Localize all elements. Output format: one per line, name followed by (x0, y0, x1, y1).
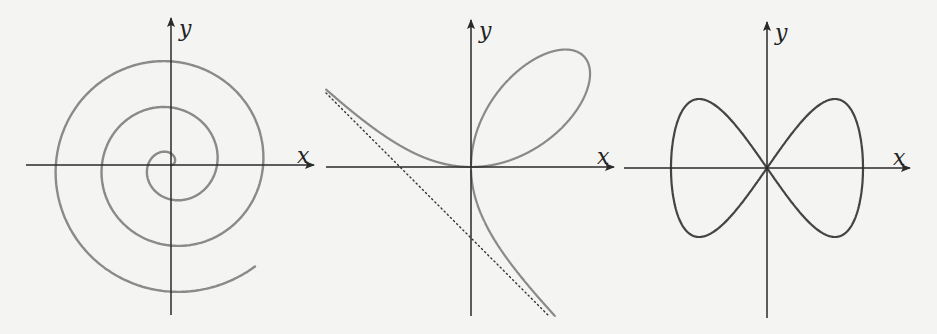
x-axis-label: x (297, 143, 310, 168)
x-axis-label: x (893, 145, 906, 170)
x-axis-label: x (597, 144, 610, 169)
folium-curve (326, 50, 590, 316)
panel-folium: x y (326, 18, 614, 316)
spiral-curve (56, 61, 264, 292)
y-axis-label: y (178, 16, 192, 41)
y-axis-label: y (774, 20, 788, 45)
y-axis-label: y (478, 18, 492, 43)
asymptote-line (326, 93, 549, 316)
panel-spiral: x y (26, 16, 314, 315)
panel-lemniscate: x y (624, 20, 910, 318)
figure-canvas: x y x y x y (0, 0, 937, 334)
